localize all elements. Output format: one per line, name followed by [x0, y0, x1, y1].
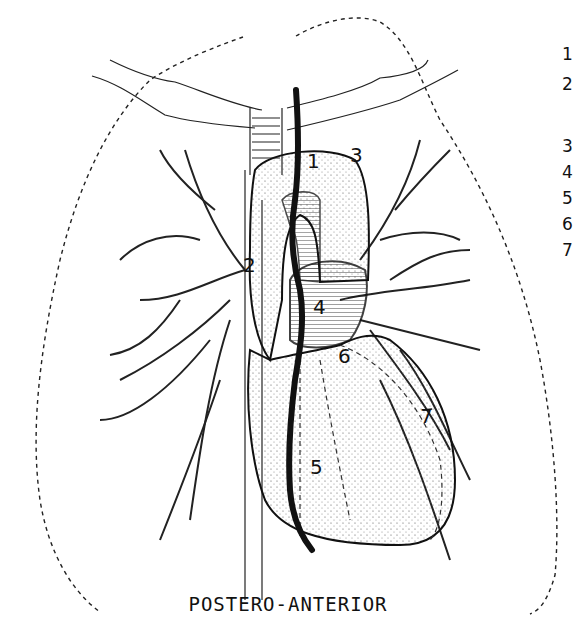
label-2: 2: [243, 253, 256, 277]
legend-num-7: 7: [562, 242, 573, 259]
legend-num-3: 3: [562, 138, 573, 155]
label-1: 1: [307, 149, 320, 173]
label-5: 5: [310, 455, 323, 479]
legend-num-1: 1: [562, 46, 573, 63]
label-6: 6: [338, 344, 351, 368]
legend-num-5: 5: [562, 190, 573, 207]
bronchial-tree-left: [100, 150, 245, 540]
figure-caption: POSTERO-ANTERIOR: [0, 593, 576, 615]
clavicles: [92, 60, 458, 130]
label-7: 7: [420, 404, 433, 428]
legend-num-2: 2: [562, 76, 573, 93]
legend-num-4: 4: [562, 164, 573, 181]
chest-anatomy-illustration: 1 2 3 4 5 6 7: [0, 0, 576, 635]
heart-outline: [248, 336, 455, 545]
label-7-leader: [423, 409, 432, 410]
legend-num-6: 6: [562, 216, 573, 233]
label-4: 4: [313, 295, 326, 319]
label-3: 3: [350, 143, 363, 167]
